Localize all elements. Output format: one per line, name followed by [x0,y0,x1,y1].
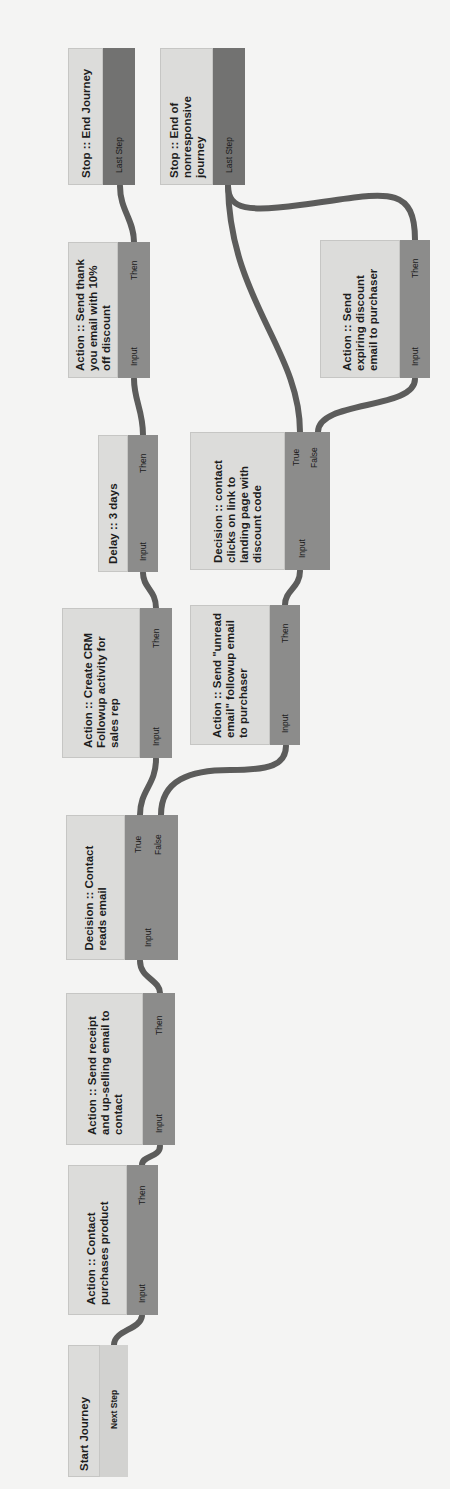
node-send-unread-email[interactable]: Action :: Send "unread email" followup e… [190,605,300,745]
port-last-step[interactable]: Last Step [224,137,234,173]
edge-clicks-false-expiring [318,379,415,432]
node-title: Decision :: contact clicks on link to la… [212,439,264,563]
node-label-area: Action :: Contact purchases product [68,1165,127,1315]
node-port-strip: Last Step [213,48,245,185]
node-title: Action :: Send receipt and up-selling em… [85,1003,124,1135]
port-input[interactable]: Input [151,727,161,746]
node-port-strip: Next Step [100,1345,128,1477]
node-port-strip: Input Then [143,993,175,1145]
node-title: Action :: Send expiring discount email t… [341,247,380,371]
node-stop-end-journey[interactable]: Stop :: End Journey Last Step [68,48,135,185]
edge-reads-false-unread [161,746,286,815]
port-next-step[interactable]: Next Step [109,1390,119,1429]
node-start-journey[interactable]: Start Journey Next Step [68,1345,128,1477]
node-title: Action :: Contact purchases product [85,1175,111,1305]
node-label-area: Decision :: Contact reads email [66,815,125,960]
node-title: Action :: Create CRM Followup activity f… [82,618,121,748]
node-create-crm-followup[interactable]: Action :: Create CRM Followup activity f… [62,608,172,758]
edge-receipt-reads [140,961,160,993]
port-input[interactable]: Input [137,1284,147,1303]
node-title: Stop :: End Journey [79,56,92,178]
node-label-area: Action :: Send receipt and up-selling em… [66,993,143,1145]
edge-clicks-true-stop2 [228,186,300,432]
node-label-area: Delay :: 3 days [98,435,128,572]
node-label-area: Start Journey [68,1345,100,1477]
port-false[interactable]: False [309,447,319,468]
node-port-strip: Input Then [127,1165,158,1315]
node-label-area: Action :: Send "unread email" followup e… [190,605,270,745]
port-then[interactable]: Then [138,454,148,473]
node-label-area: Action :: Create CRM Followup activity f… [62,608,140,758]
node-send-thank-you[interactable]: Action :: Send thank you email with 10% … [68,242,150,378]
port-then[interactable]: Then [151,629,161,648]
port-then[interactable]: Then [154,1016,164,1035]
port-input[interactable]: Input [280,714,290,733]
node-title: Action :: Send thank you email with 10% … [74,249,113,371]
edge-delay-thanks [134,379,143,435]
edge-reads-true-crm [140,759,156,815]
edge-start-purchase [114,1316,142,1345]
node-port-strip: Input Then [118,242,150,378]
port-true[interactable]: True [291,449,301,466]
port-input[interactable]: Input [154,1114,164,1133]
port-true[interactable]: True [133,836,143,853]
node-port-strip: Input True False [285,432,330,570]
port-then[interactable]: Then [129,261,139,280]
node-title: Action :: Send "unread email" followup e… [211,612,250,738]
port-input[interactable]: Input [143,928,153,947]
node-label-area: Stop :: End Journey [68,48,103,185]
node-label-area: Action :: Send expiring discount email t… [320,240,400,378]
node-port-strip: Input Then [140,608,172,758]
node-port-strip: Last Step [103,48,135,185]
node-port-strip: Input Then [400,240,430,378]
port-input[interactable]: Input [297,539,307,558]
edge-purchase-receipt [142,1146,160,1165]
node-send-receipt[interactable]: Action :: Send receipt and up-selling em… [66,993,175,1145]
node-title: Stop :: End of nonresponsive journey [167,56,206,178]
node-port-strip: Input Then [270,605,300,745]
node-port-strip: Input True False [125,815,178,960]
node-label-area: Action :: Send thank you email with 10% … [68,242,118,378]
node-stop-nonresponsive[interactable]: Stop :: End of nonresponsive journey Las… [160,48,245,185]
node-delay-3-days[interactable]: Delay :: 3 days Input Then [98,435,158,572]
node-port-strip: Input Then [128,435,158,572]
node-title: Decision :: Contact reads email [83,825,109,950]
node-decision-clicks-link[interactable]: Decision :: contact clicks on link to la… [190,432,330,570]
port-then[interactable]: Then [137,1186,147,1205]
edge-unread-clicks [285,571,300,605]
port-then[interactable]: Then [410,259,420,278]
node-label-area: Decision :: contact clicks on link to la… [190,432,285,570]
port-false[interactable]: False [153,834,163,855]
node-title: Delay :: 3 days [107,444,120,564]
port-input[interactable]: Input [410,347,420,366]
port-input[interactable]: Input [138,542,148,561]
node-title: Start Journey [78,1351,91,1471]
edge-expiring-stop2 [228,186,415,240]
node-decision-reads-email[interactable]: Decision :: Contact reads email Input Tr… [66,815,178,960]
node-contact-purchases[interactable]: Action :: Contact purchases product Inpu… [68,1165,158,1315]
edge-crm-delay [143,573,156,608]
port-last-step[interactable]: Last Step [114,137,124,173]
edge-thanks-stop1 [120,186,134,242]
node-send-expiring-discount[interactable]: Action :: Send expiring discount email t… [320,240,430,378]
port-input[interactable]: Input [129,347,139,366]
port-then[interactable]: Then [280,624,290,643]
node-label-area: Stop :: End of nonresponsive journey [160,48,213,185]
